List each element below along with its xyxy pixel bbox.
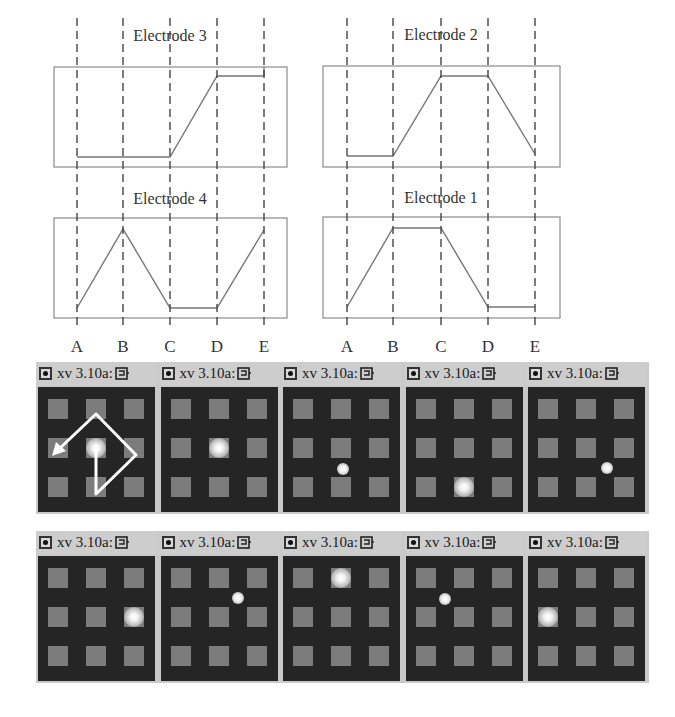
- window-menu-button-icon[interactable]: [407, 367, 420, 380]
- electrode-pad: [538, 568, 558, 588]
- electrode-pad: [369, 477, 389, 497]
- window-iconify-icon[interactable]: [482, 367, 497, 381]
- electrode-pad: [416, 568, 436, 588]
- electrode-pad: [538, 399, 558, 419]
- xv-window[interactable]: xv 3.10a:: [159, 362, 280, 514]
- window-menu-button-icon[interactable]: [39, 536, 52, 549]
- window-title: xv 3.10a:: [57, 365, 113, 382]
- electrode-pad: [331, 477, 351, 497]
- window-title: xv 3.10a:: [547, 365, 603, 382]
- electrode-pad: [171, 399, 191, 419]
- window-iconify-icon[interactable]: [360, 367, 375, 381]
- xv-window[interactable]: xv 3.10a:: [36, 531, 157, 683]
- simulation-frames-row-1: xv 3.10a:xv 3.10a:xv 3.10a:xv 3.10a:xv 3…: [36, 362, 649, 514]
- electrode-pad: [614, 399, 634, 419]
- window-iconify-icon[interactable]: [482, 536, 497, 550]
- electrode-pad: [209, 568, 229, 588]
- electrode-grid-view: [528, 387, 645, 512]
- electrode-pad: [454, 399, 474, 419]
- column-label-b: B: [117, 337, 128, 356]
- xv-window[interactable]: xv 3.10a:: [526, 531, 647, 683]
- window-title: xv 3.10a:: [547, 534, 603, 551]
- droplet: [601, 462, 613, 474]
- electrode-pad: [492, 607, 512, 627]
- electrode-pad: [416, 607, 436, 627]
- electrode-pad: [538, 438, 558, 458]
- window-titlebar[interactable]: xv 3.10a:: [404, 362, 525, 385]
- window-titlebar[interactable]: xv 3.10a:: [526, 531, 647, 554]
- electrode-pad: [247, 477, 267, 497]
- electrode-4-title: Electrode 4: [133, 190, 206, 207]
- electrode-pad: [454, 568, 474, 588]
- electrode-pad: [576, 646, 596, 666]
- window-titlebar[interactable]: xv 3.10a:: [404, 531, 525, 554]
- window-titlebar[interactable]: xv 3.10a:: [159, 531, 280, 554]
- window-titlebar[interactable]: xv 3.10a:: [281, 531, 402, 554]
- electrode-pad: [209, 477, 229, 497]
- electrode-pad: [492, 568, 512, 588]
- window-titlebar[interactable]: xv 3.10a:: [36, 362, 157, 385]
- window-titlebar[interactable]: xv 3.10a:: [526, 362, 647, 385]
- droplet: [209, 438, 229, 458]
- window-iconify-icon[interactable]: [115, 367, 130, 381]
- electrode-pad: [454, 646, 474, 666]
- electrode-pad: [614, 607, 634, 627]
- droplet: [232, 592, 244, 604]
- electrode-grid-view: [38, 556, 155, 681]
- electrode-pad: [614, 568, 634, 588]
- window-menu-button-icon[interactable]: [162, 367, 175, 380]
- column-label-d: D: [482, 337, 494, 356]
- xv-window[interactable]: xv 3.10a:: [526, 362, 647, 514]
- window-title: xv 3.10a:: [57, 534, 113, 551]
- column-label-a: A: [71, 337, 84, 356]
- electrode-pad: [576, 438, 596, 458]
- electrode-grid-view: [38, 387, 155, 512]
- window-iconify-icon[interactable]: [237, 367, 252, 381]
- xv-window[interactable]: xv 3.10a:: [404, 531, 525, 683]
- window-iconify-icon[interactable]: [115, 536, 130, 550]
- electrode-pad: [369, 399, 389, 419]
- electrode-1-title: Electrode 1: [404, 189, 477, 206]
- window-menu-button-icon[interactable]: [162, 536, 175, 549]
- electrode-pad: [86, 646, 106, 666]
- window-titlebar[interactable]: xv 3.10a:: [36, 531, 157, 554]
- window-menu-button-icon[interactable]: [284, 536, 297, 549]
- xv-window[interactable]: xv 3.10a:: [281, 362, 402, 514]
- electrode-pad: [369, 568, 389, 588]
- window-titlebar[interactable]: xv 3.10a:: [159, 362, 280, 385]
- window-titlebar[interactable]: xv 3.10a:: [281, 362, 402, 385]
- xv-window[interactable]: xv 3.10a:: [159, 531, 280, 683]
- window-menu-button-icon[interactable]: [529, 536, 542, 549]
- window-menu-button-icon[interactable]: [529, 367, 542, 380]
- electrode-pad: [293, 568, 313, 588]
- electrode-pad: [416, 399, 436, 419]
- electrode-pad: [331, 646, 351, 666]
- droplet: [538, 607, 558, 627]
- electrode-pad: [124, 568, 144, 588]
- window-menu-button-icon[interactable]: [284, 367, 297, 380]
- xv-window[interactable]: xv 3.10a:: [404, 362, 525, 514]
- droplet-path-arrow-icon: [38, 387, 155, 512]
- simulation-frames-row-2: xv 3.10a:xv 3.10a:xv 3.10a:xv 3.10a:xv 3…: [36, 531, 649, 683]
- electrode-pad: [416, 477, 436, 497]
- window-title: xv 3.10a:: [302, 365, 358, 382]
- electrode-pad: [293, 607, 313, 627]
- electrode-pad: [171, 477, 191, 497]
- xv-window[interactable]: xv 3.10a:: [281, 531, 402, 683]
- electrode-pad: [614, 646, 634, 666]
- window-iconify-icon[interactable]: [360, 536, 375, 550]
- xv-window[interactable]: xv 3.10a:: [36, 362, 157, 514]
- droplet: [337, 463, 349, 475]
- window-iconify-icon[interactable]: [605, 536, 620, 550]
- electrode-2-title: Electrode 2: [404, 26, 477, 43]
- electrode-pad: [576, 399, 596, 419]
- electrode-pad: [209, 399, 229, 419]
- window-iconify-icon[interactable]: [237, 536, 252, 550]
- electrode-grid-view: [161, 387, 278, 512]
- window-iconify-icon[interactable]: [605, 367, 620, 381]
- window-menu-button-icon[interactable]: [407, 536, 420, 549]
- electrode-pad: [576, 607, 596, 627]
- window-menu-button-icon[interactable]: [39, 367, 52, 380]
- electrode-pad: [293, 399, 313, 419]
- electrode-pad: [369, 607, 389, 627]
